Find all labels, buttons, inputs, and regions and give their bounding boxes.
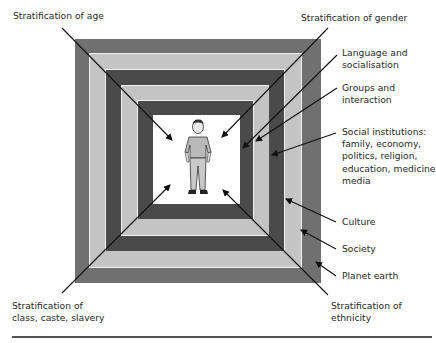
label-stratification-ethnicity: Stratification of ethnicity [331, 300, 402, 324]
arrow-class [62, 185, 170, 293]
arrow-society [301, 230, 336, 249]
arrow-groups [256, 88, 337, 141]
label-social-institutions: Social institutions: family, economy, po… [342, 126, 436, 187]
label-stratification-age: Stratification of age [13, 10, 104, 22]
label-planet-earth: Planet earth [342, 270, 398, 282]
arrow-culture [286, 199, 336, 222]
label-culture: Culture [342, 216, 375, 228]
label-language-socialisation: Language and socialisation [342, 47, 408, 71]
label-groups-interaction: Groups and interaction [342, 82, 395, 106]
arrow-ethnicity [223, 190, 328, 295]
arrow-age [62, 28, 172, 140]
arrow-gender [222, 28, 328, 137]
arrow-institutions [272, 133, 336, 155]
arrow-planet [316, 262, 336, 276]
label-society: Society [342, 243, 376, 255]
label-stratification-class: Stratification of class, caste, slavery [12, 300, 105, 324]
bottom-rule [12, 336, 432, 338]
label-stratification-gender: Stratification of gender [301, 12, 407, 24]
